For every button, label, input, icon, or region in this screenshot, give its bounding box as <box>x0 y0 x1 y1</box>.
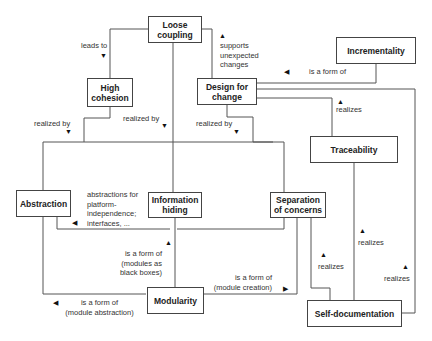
node-self-documentation: Self-documentation <box>307 300 402 327</box>
node-traceability: Traceability <box>310 136 398 163</box>
label-is-a-form-of-black-boxes: is a form of (modules as black boxes) <box>115 249 162 278</box>
arrow-left-icon: ◀ <box>53 298 58 308</box>
label-realized-by-2: realized by <box>123 114 159 124</box>
node-high-cohesion: High cohesion <box>87 78 133 107</box>
label-supports-unexpected-changes: supports unexpected changes <box>220 41 259 70</box>
node-modularity: Modularity <box>147 287 204 314</box>
node-information-hiding: Information hiding <box>148 192 202 218</box>
label-is-a-form-of-module-abstraction: is a form of (module abstraction) <box>62 298 137 317</box>
arrow-up-icon: ▲ <box>320 250 327 260</box>
arrow-up-icon: ▲ <box>165 238 172 248</box>
arrow-left-icon: ◀ <box>72 218 77 228</box>
label-realizes-soc: realizes <box>318 262 344 272</box>
node-loose-coupling: Loose coupling <box>148 16 202 43</box>
node-abstraction: Abstraction <box>16 190 71 217</box>
label-is-a-form-of-incrementality: is a form of <box>309 67 346 77</box>
node-design-for-change: Design for change <box>197 78 257 105</box>
arrow-down-icon: ▼ <box>161 121 168 131</box>
label-abstractions-for: abstractions for platform- independence;… <box>87 190 138 228</box>
arrow-down-icon: ▼ <box>100 51 107 61</box>
concept-diagram: Loose coupling High cohesion Design for … <box>0 0 432 341</box>
label-realized-by-3: realized by <box>196 119 232 129</box>
arrow-down-icon: ▼ <box>65 127 72 137</box>
arrow-right-icon: ▶ <box>283 284 288 294</box>
label-is-a-form-of-module-creation: is a form of (module creation) <box>206 273 272 292</box>
node-separation-of-concerns: Separation of concerns <box>270 192 326 218</box>
arrow-up-icon: ▲ <box>219 31 226 41</box>
arrow-up-icon: ▲ <box>359 226 366 236</box>
arrow-left-icon: ◀ <box>284 67 289 77</box>
arrow-down-icon: ▼ <box>233 127 240 137</box>
arrow-up-icon: ▲ <box>402 262 409 272</box>
label-realizes-trace-selfdoc: realizes <box>358 238 384 248</box>
node-incrementality: Incrementality <box>336 37 416 64</box>
label-leads-to: leads to <box>81 41 107 51</box>
label-realizes-traceability: realizes <box>336 105 362 115</box>
label-realizes-selfdoc-dfc: realizes <box>384 274 410 284</box>
